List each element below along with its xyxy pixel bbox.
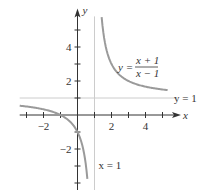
y-axis-label: y (82, 4, 88, 16)
vertical-asymptote-label: x = 1 (99, 159, 122, 171)
x-tick-label: 2 (109, 120, 115, 132)
equation-label-lhs: y = (117, 61, 133, 73)
equation-denominator: x − 1 (135, 67, 159, 79)
y-tick-label: 2 (66, 75, 72, 87)
y-tick-label: 4 (66, 41, 72, 53)
x-axis-label: x (182, 109, 188, 121)
equation-numerator: x + 1 (135, 54, 159, 66)
x-tick-label: −2 (38, 120, 50, 132)
x-tick-label: 4 (143, 120, 149, 132)
horizontal-asymptote-label: y = 1 (174, 92, 197, 104)
y-tick-label: −2 (60, 143, 72, 155)
rational-function-chart: y = 1x = 1xy−224−224 y = x + 1 x − 1 (0, 0, 204, 190)
